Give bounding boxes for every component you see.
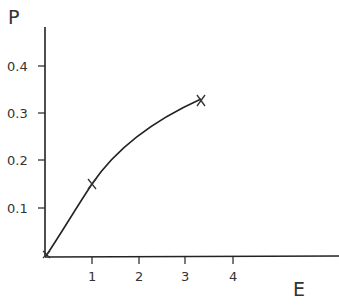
x-tick-label: 2	[135, 269, 143, 284]
x-axis	[45, 256, 339, 257]
x-tick-label: 3	[181, 269, 189, 284]
y-tick-label: 0.1	[7, 201, 28, 216]
x-tick-label: 4	[229, 269, 237, 284]
x-ticks: 1 2 3 4	[88, 257, 237, 284]
x-tick-label: 1	[88, 269, 96, 284]
x-marker-icon	[88, 179, 96, 189]
y-tick-label: 0.4	[7, 59, 28, 74]
line-chart: 0.4 0.3 0.2 0.1 1 2 3 4 P E	[0, 0, 339, 306]
data-curve	[46, 99, 201, 256]
y-tick-label: 0.3	[7, 106, 28, 121]
y-axis-title: P	[8, 6, 19, 28]
y-ticks: 0.4 0.3 0.2 0.1	[7, 59, 45, 216]
x-axis-title: E	[293, 278, 305, 300]
y-tick-label: 0.2	[7, 153, 28, 168]
